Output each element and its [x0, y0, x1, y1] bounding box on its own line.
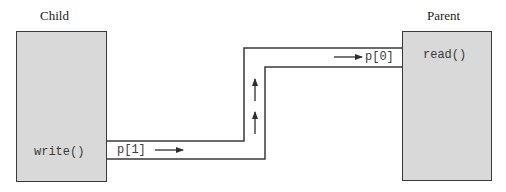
- pipe-read-end-label: p[0]: [365, 50, 394, 64]
- pipe-write-end-label: p[1]: [117, 143, 146, 157]
- pipe-channel: [0, 0, 506, 192]
